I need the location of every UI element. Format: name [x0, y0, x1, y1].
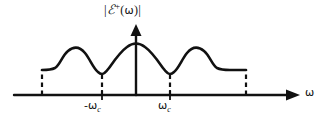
axis-label-omega: ω: [305, 87, 314, 98]
spectrum-figure: |ℰ+(ω)| -ωc ωc ω: [0, 0, 326, 128]
tick-label-positive-cutoff-subscript: c: [167, 105, 171, 114]
ordinate-symbol: ℰ: [107, 2, 115, 17]
magnitude-axis-arrowhead: [131, 24, 142, 36]
tick-label-positive-cutoff-text: ω: [158, 99, 167, 112]
ordinate-label: |ℰ+(ω)|: [104, 2, 141, 16]
ordinate-right-bar: |: [138, 2, 141, 17]
vertical-axis: [131, 24, 142, 95]
tick-label-negative-cutoff: -ωc: [84, 100, 101, 114]
tick-label-negative-cutoff-subscript: c: [97, 105, 101, 114]
ordinate-variable: ω: [125, 4, 134, 17]
tick-label-positive-cutoff: ωc: [158, 100, 171, 114]
band-edge-dashed-lines: [42, 70, 246, 95]
spectrum-curve: [42, 44, 246, 75]
tick-label-negative-cutoff-text: -ω: [84, 99, 97, 112]
omega-axis-arrowhead: [286, 90, 300, 101]
horizontal-axis: [14, 90, 300, 101]
